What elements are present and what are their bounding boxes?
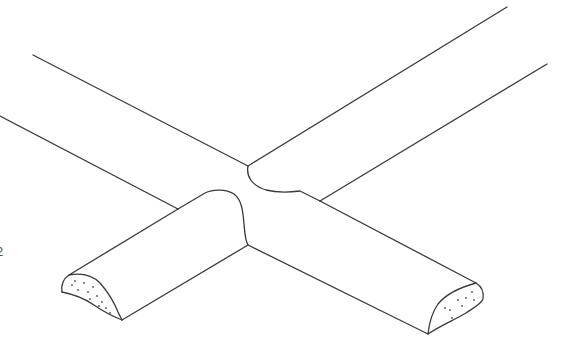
- drawing-canvas: [0, 0, 567, 364]
- reference-numeral: 2: [0, 244, 3, 259]
- front-left-bar-lower-edge: [122, 245, 248, 320]
- front-right-cut-end: [428, 283, 483, 334]
- front-left-cut-end: [62, 274, 122, 320]
- rear-bar-upper-edge: [33, 55, 248, 166]
- front-right-bar-upper-edge: [320, 201, 476, 283]
- front-left-bar-upper-edge: [69, 209, 178, 275]
- front-right-bar-lower-edge: [248, 245, 428, 334]
- rear-bar-lower-edge: [0, 116, 178, 209]
- right-bar-upper-edge: [248, 7, 507, 166]
- right-bar-lower-edge: [320, 64, 547, 201]
- junction-fillet-left: [178, 190, 248, 245]
- t-junction-figure: 2: [0, 0, 567, 364]
- junction-fillet-right: [248, 166, 320, 201]
